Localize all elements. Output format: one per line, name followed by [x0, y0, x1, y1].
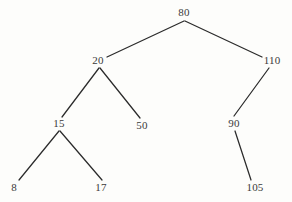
tree-node-20: 20: [92, 55, 103, 66]
tree-edge: [62, 68, 99, 117]
tree-edge: [100, 68, 140, 118]
tree-edge: [235, 131, 251, 180]
tree-node-17: 17: [95, 182, 106, 193]
tree-node-105: 105: [246, 182, 263, 193]
tree-node-15: 15: [53, 118, 64, 129]
edges-group: [19, 21, 269, 180]
tree-node-110: 110: [264, 55, 281, 66]
tree-node-8: 8: [11, 182, 17, 193]
tree-edge: [185, 21, 262, 57]
tree-node-50: 50: [136, 120, 147, 131]
tree-edge: [234, 68, 269, 116]
tree-edge: [60, 131, 102, 180]
tree-node-90: 90: [228, 118, 239, 129]
tree-node-80: 80: [178, 7, 189, 18]
tree-edge: [107, 21, 184, 57]
binary-tree-diagram: 8020110155090817105: [0, 0, 292, 202]
tree-edges-layer: [0, 0, 292, 202]
tree-edge: [19, 131, 59, 180]
